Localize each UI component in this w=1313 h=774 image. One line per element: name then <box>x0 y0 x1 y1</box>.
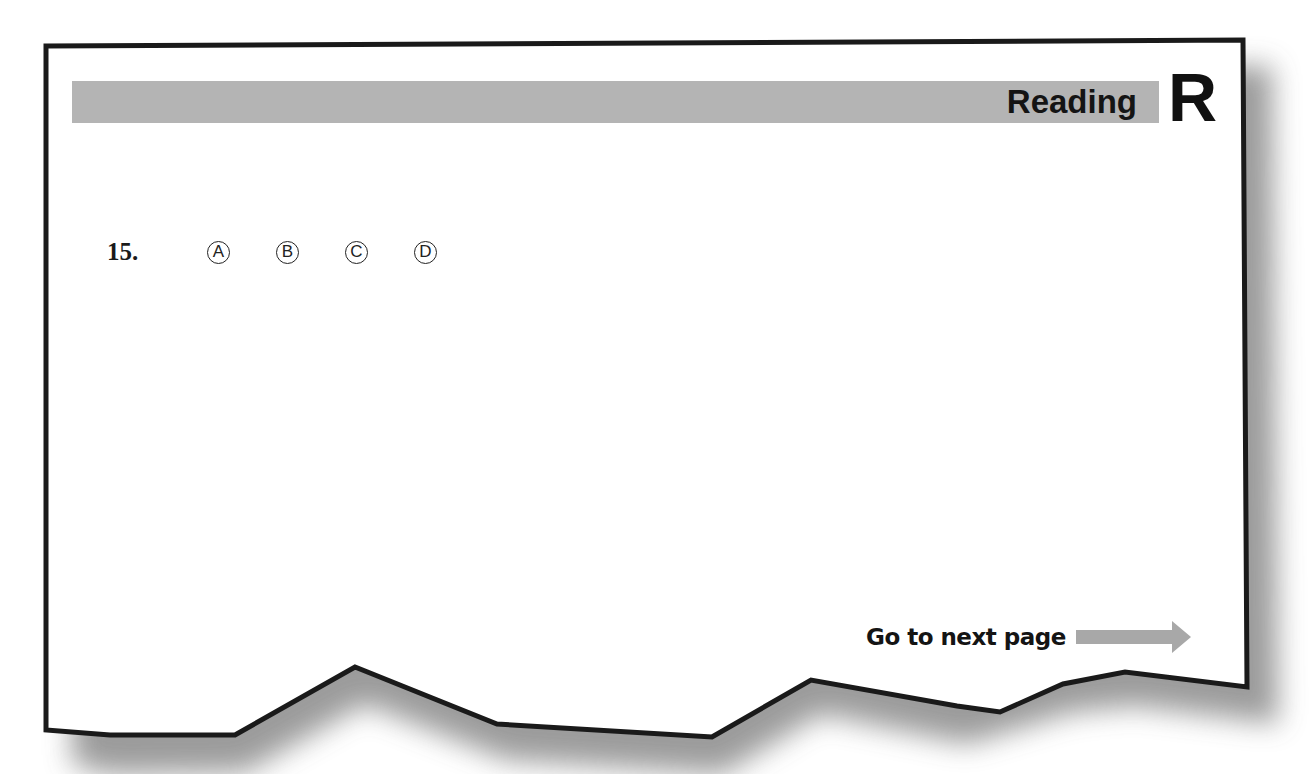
section-header-bar: Reading <box>72 81 1159 123</box>
answer-bubble-d[interactable]: D <box>414 241 437 264</box>
section-title: Reading <box>1007 84 1137 120</box>
go-to-next-page[interactable]: Go to next page <box>866 620 1192 654</box>
right-arrow-icon <box>1076 620 1192 654</box>
answer-row-question-15: 15. A B C D <box>107 234 483 270</box>
answer-bubble-a[interactable]: A <box>207 241 230 264</box>
next-page-label: Go to next page <box>866 624 1066 650</box>
section-letter-badge: R <box>1168 62 1217 132</box>
answer-bubble-c[interactable]: C <box>345 241 368 264</box>
answer-bubble-b[interactable]: B <box>276 241 299 264</box>
question-number: 15. <box>107 238 207 266</box>
